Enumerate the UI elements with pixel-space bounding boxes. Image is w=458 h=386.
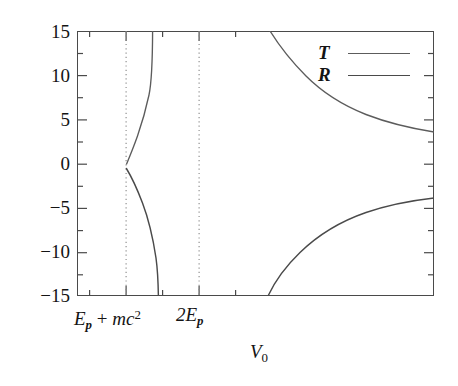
chart-legend: T R: [300, 40, 430, 92]
x-axis-tick-labels: Ep + mc2 2Ep: [0, 300, 458, 340]
x-tick-mc: mc: [112, 308, 134, 329]
legend-line-t: [348, 53, 410, 54]
y-tick-label: 10: [2, 66, 70, 85]
legend-label-r: R: [318, 64, 331, 86]
x-tick-2ep-sub: p: [197, 313, 203, 328]
x-tick-2ep-lead: 2E: [176, 304, 197, 325]
chart-figure: 15 10 5 0 −5 −10 −15: [0, 0, 458, 386]
y-tick-label: 15: [2, 22, 70, 41]
x-tick-mc-exponent: 2: [134, 307, 140, 322]
legend-line-r: [348, 75, 410, 76]
x-tick-plus-op: +: [92, 308, 112, 329]
x-axis-title: V0: [0, 341, 458, 366]
y-tick-label: −5: [2, 198, 70, 217]
x-axis-title-sub: 0: [262, 350, 268, 365]
x-axis-title-symbol: V: [250, 341, 262, 362]
y-tick-label: −10: [2, 242, 70, 261]
y-tick-label: 5: [2, 110, 70, 129]
y-tick-label: 0: [2, 154, 70, 173]
legend-item-t: T: [300, 42, 430, 66]
legend-item-r: R: [300, 64, 430, 88]
x-tick-label-2ep: 2Ep: [176, 304, 204, 332]
x-tick-ep-E: E: [74, 308, 86, 329]
legend-label-t: T: [318, 42, 330, 64]
x-tick-label-ep-plus-mc2: Ep + mc2: [74, 304, 141, 336]
